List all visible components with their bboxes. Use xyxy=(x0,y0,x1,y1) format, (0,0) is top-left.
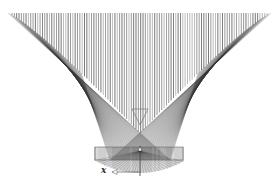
x-axis-label: x xyxy=(101,165,106,175)
incident-rays xyxy=(12,13,267,133)
ray-trace-diagram xyxy=(0,0,280,184)
